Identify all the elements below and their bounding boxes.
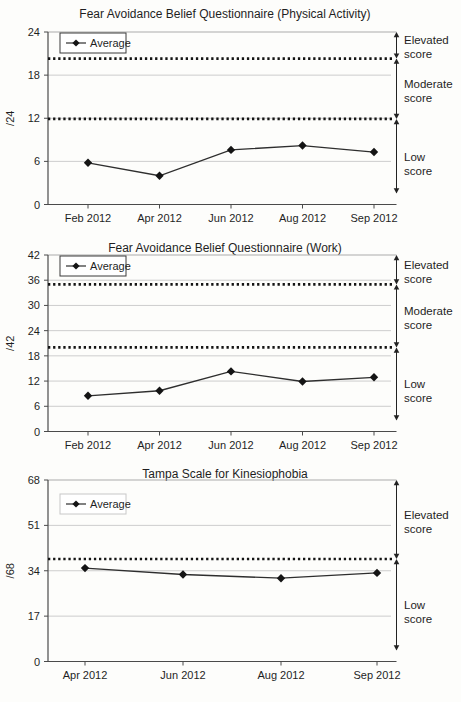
y-tick-label: 0 [34, 199, 40, 211]
data-point-marker [298, 377, 306, 385]
x-tick-label: Apr 2012 [137, 439, 182, 451]
chart-fabq-physical-activity: Fear Avoidance Belief Questionnaire (Phy… [0, 0, 461, 234]
chart-tampa-kinesiophobia-plot: 017345168Apr 2012Jun 2012Aug 2012Sep 201… [0, 460, 461, 702]
data-point-marker [373, 569, 381, 577]
arrow-up-icon [394, 119, 400, 124]
arrow-up-icon [394, 284, 400, 289]
x-tick-label: Aug 2012 [257, 669, 304, 681]
x-tick-label: Jun 2012 [208, 439, 253, 451]
data-point-marker [298, 141, 306, 149]
arrow-up-icon [394, 59, 400, 64]
arrow-down-icon [394, 415, 400, 420]
y-axis-label: /42 [4, 336, 16, 351]
zone-label: score [404, 92, 432, 104]
y-tick-label: 68 [28, 474, 40, 486]
y-tick-label: 18 [28, 350, 40, 362]
chart-fabq-work-plot: 06121824303642Feb 2012Apr 2012Jun 2012Au… [0, 234, 461, 460]
arrow-down-icon [394, 554, 400, 559]
data-point-marker [370, 373, 378, 381]
x-tick-label: Feb 2012 [65, 212, 111, 224]
zone-label: score [404, 165, 432, 177]
arrow-down-icon [394, 114, 400, 119]
y-tick-label: 6 [34, 400, 40, 412]
x-tick-label: Jun 2012 [160, 669, 205, 681]
chart-fabq-physical-activity-plot: 06121824Feb 2012Apr 2012Jun 2012Aug 2012… [0, 0, 461, 234]
arrow-up-icon [394, 559, 400, 564]
zone-label: Elevated [404, 259, 449, 271]
arrow-up-icon [394, 255, 400, 260]
zone-label: Elevated [404, 509, 449, 521]
y-axis-label: /68 [4, 563, 16, 578]
y-tick-label: 34 [28, 565, 40, 577]
y-tick-label: 24 [28, 26, 40, 38]
x-tick-label: Sep 2012 [353, 669, 400, 681]
y-tick-label: 36 [28, 274, 40, 286]
chart-tampa-kinesiophobia: Tampa Scale for Kinesiophobia 017345168A… [0, 460, 461, 702]
y-axis-label: /24 [4, 111, 16, 126]
legend-label: Average [90, 498, 131, 510]
arrow-up-icon [394, 480, 400, 485]
data-point-marker [84, 392, 92, 400]
arrow-down-icon [394, 342, 400, 347]
data-point-marker [227, 367, 235, 375]
y-tick-label: 30 [28, 299, 40, 311]
arrow-down-icon [394, 53, 400, 58]
chart-fabq-work: Fear Avoidance Belief Questionnaire (Wor… [0, 234, 461, 460]
x-tick-label: Jun 2012 [208, 212, 253, 224]
data-point-marker [277, 574, 285, 582]
y-tick-label: 6 [34, 155, 40, 167]
y-tick-label: 0 [34, 426, 40, 438]
data-point-marker [155, 387, 163, 395]
zone-label: score [404, 392, 432, 404]
zone-label: Low [404, 599, 426, 611]
y-tick-label: 12 [28, 112, 40, 124]
y-tick-label: 0 [34, 656, 40, 668]
x-tick-label: Apr 2012 [63, 669, 108, 681]
legend-label: Average [90, 260, 131, 272]
data-point-marker [227, 146, 235, 154]
zone-label: score [404, 273, 432, 285]
data-point-marker [155, 172, 163, 180]
figure-page: Fear Avoidance Belief Questionnaire (Phy… [0, 0, 461, 702]
y-tick-label: 42 [28, 249, 40, 261]
zone-label: score [404, 523, 432, 535]
legend-label: Average [90, 37, 131, 49]
x-tick-label: Sep 2012 [350, 212, 397, 224]
arrow-up-icon [394, 347, 400, 352]
x-tick-label: Apr 2012 [137, 212, 182, 224]
x-tick-label: Aug 2012 [279, 439, 326, 451]
data-point-marker [179, 570, 187, 578]
data-point-marker [370, 148, 378, 156]
zone-label: Low [404, 151, 426, 163]
data-point-marker [84, 159, 92, 167]
zone-label: score [404, 319, 432, 331]
series-line [85, 568, 377, 578]
zone-label: Moderate [404, 305, 453, 317]
y-tick-label: 24 [28, 325, 40, 337]
y-tick-label: 12 [28, 375, 40, 387]
arrow-up-icon [394, 32, 400, 37]
zone-label: score [404, 613, 432, 625]
x-tick-label: Sep 2012 [350, 439, 397, 451]
arrow-down-icon [394, 188, 400, 193]
x-tick-label: Aug 2012 [279, 212, 326, 224]
y-tick-label: 51 [28, 519, 40, 531]
zone-label: Low [404, 378, 426, 390]
arrow-down-icon [394, 279, 400, 284]
y-tick-label: 17 [28, 610, 40, 622]
zone-label: Elevated [404, 34, 449, 46]
zone-label: score [404, 48, 432, 60]
y-tick-label: 18 [28, 69, 40, 81]
x-tick-label: Feb 2012 [65, 439, 111, 451]
arrow-down-icon [394, 645, 400, 650]
zone-label: Moderate [404, 78, 453, 90]
